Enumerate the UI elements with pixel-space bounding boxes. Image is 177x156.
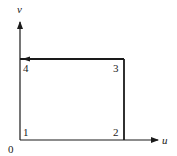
vertex-label-3: 3 <box>113 62 119 74</box>
v-axis-label: v <box>17 3 22 15</box>
vertex-label-1: 1 <box>23 126 29 138</box>
direction-arrow-icon <box>22 57 30 62</box>
u-axis-label: u <box>162 134 168 146</box>
vertex-label-4: 4 <box>23 62 29 74</box>
uv-diagram: v u 0 1 2 3 4 <box>0 0 177 156</box>
origin-label: 0 <box>8 143 14 155</box>
vertex-label-2: 2 <box>113 126 119 138</box>
